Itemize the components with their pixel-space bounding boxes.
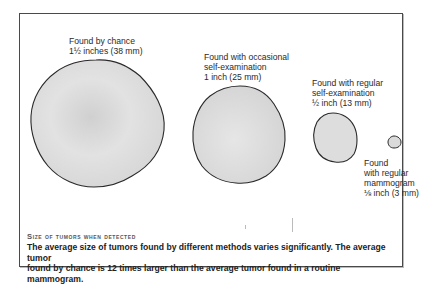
caption-title: Size of tumors when detected [27,232,397,242]
divider-mark [245,225,246,229]
label-method: Found [364,158,419,168]
label-method-cont: with regular [364,168,419,178]
label-method: Found by chance [69,36,143,46]
label-mammogram: Found with regular mammogram ⅛ inch (3 m… [364,158,419,198]
label-method: Found with regular [312,78,383,88]
label-method-cont: self-examination [312,88,383,98]
tumor-regular-self-exam [314,113,357,162]
tumor-chance [31,60,164,187]
label-method-cont: self-examination [204,62,289,72]
label-occasional: Found with occasional self-examination 1… [204,52,289,82]
label-method-cont2: mammogram [364,178,419,188]
label-method: Found with occasional [204,52,289,62]
label-size: 1 inch (25 mm) [204,72,289,82]
label-size: ⅛ inch (3 mm) [364,188,419,198]
caption-body-line1: The average size of tumors found by diff… [27,242,397,263]
label-size: ½ inch (13 mm) [312,98,383,108]
caption-body-line2: found by chance is 12 times larger than … [27,263,397,284]
tumor-occasional [193,86,285,183]
tumor-mammogram [388,136,401,148]
divider-mark [292,218,293,232]
label-chance: Found by chance 1½ inches (38 mm) [69,36,143,56]
figure-caption: Size of tumors when detected The average… [27,232,397,284]
label-size: 1½ inches (38 mm) [69,46,143,56]
label-regular-self-exam: Found with regular self-examination ½ in… [312,78,383,108]
